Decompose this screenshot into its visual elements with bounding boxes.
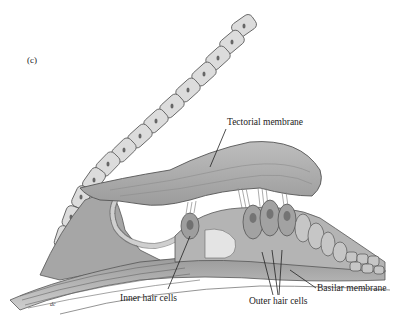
- label-basilar-membrane: Basilar membrane: [317, 283, 386, 293]
- label-outer-hair-cells: Outer hair cells: [249, 296, 308, 306]
- label-tectorial-membrane: Tectorial membrane: [227, 117, 303, 127]
- organ-of-corti-figure: (c) Tectorial membrane Inner hair cells …: [0, 0, 410, 321]
- panel-label: (c): [27, 55, 37, 65]
- label-inner-hair-cells: Inner hair cells: [120, 293, 177, 303]
- artist-signature: dc: [50, 301, 56, 307]
- anatomical-drawing: [0, 0, 410, 321]
